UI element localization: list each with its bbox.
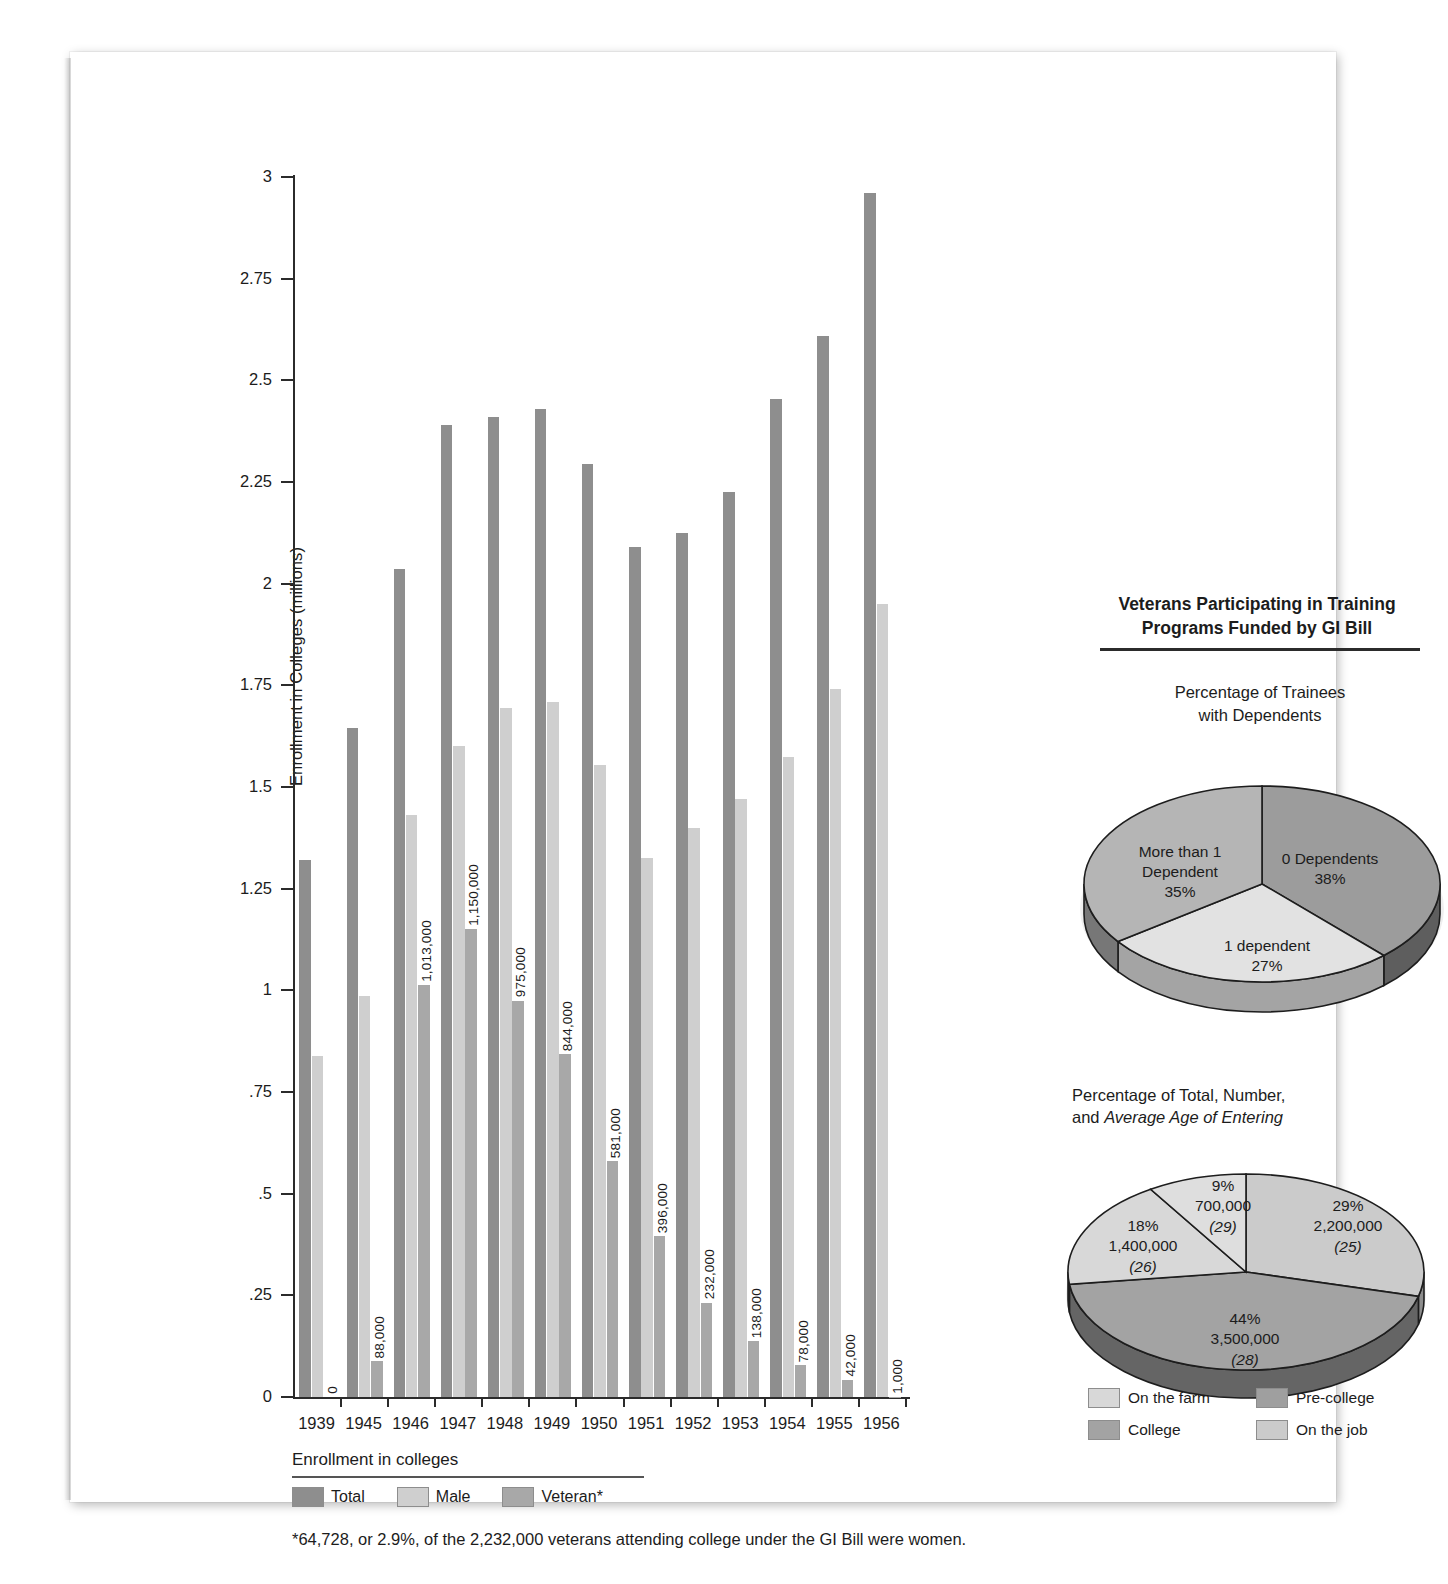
x-tick <box>387 1397 389 1407</box>
pie2-s2-num: 3,500,000 <box>1150 1329 1340 1349</box>
pie1-subtitle-line2: with Dependents <box>1050 704 1448 726</box>
x-tick <box>434 1397 436 1407</box>
bar-value-label-1954: 78,000 <box>796 1320 811 1363</box>
pie2-legend-swatch-college <box>1088 1420 1120 1440</box>
bar-value-label-1939: 0 <box>325 1386 340 1394</box>
y-tick-label: 0 <box>180 1387 272 1406</box>
legend-swatch-total <box>292 1487 324 1507</box>
x-axis-label-1956: 1956 <box>858 1414 905 1433</box>
y-tick-label: 1.25 <box>180 879 272 898</box>
bar-chart-legend: Enrollment in colleges TotalMaleVeteran* <box>292 1450 992 1507</box>
y-tick-label: 1.75 <box>180 675 272 694</box>
y-tick <box>281 176 293 178</box>
bar-veteran-1949 <box>559 1054 571 1397</box>
pie1-slice-a-text: 0 Dependents 38% <box>1250 849 1410 889</box>
x-axis-line <box>293 1397 910 1399</box>
pie2-slice-pre-college-text: 9% 700,000 (29) <box>1158 1176 1288 1236</box>
legend-swatch-veteran <box>502 1487 534 1507</box>
x-tick <box>905 1397 907 1407</box>
right-panel: Veterans Participating in Training Progr… <box>1050 592 1448 1424</box>
pie2-subtitle-line2-italic: Average Age of Entering <box>1104 1108 1283 1126</box>
pie2-legend-item-on-the-farm: On the farm <box>1088 1388 1256 1408</box>
y-tick <box>281 684 293 686</box>
x-tick <box>340 1397 342 1407</box>
bar-value-label-1955: 42,000 <box>843 1334 858 1377</box>
y-tick-label: .75 <box>180 1082 272 1101</box>
pie1-slice-a-value: 38% <box>1250 869 1410 889</box>
bar-total-1945 <box>347 728 359 1397</box>
bar-total-1947 <box>441 425 453 1397</box>
bar-male-1952 <box>688 828 700 1397</box>
bar-total-1949 <box>535 409 547 1397</box>
y-tick <box>281 481 293 483</box>
pie2-legend-swatch-on-the-job <box>1256 1420 1288 1440</box>
bar-total-1950 <box>582 464 594 1397</box>
legend-rule <box>292 1476 644 1478</box>
legend-label-total: Total <box>331 1488 365 1506</box>
x-axis-label-1952: 1952 <box>670 1414 717 1433</box>
bar-veteran-1948 <box>512 1001 524 1398</box>
x-tick <box>670 1397 672 1407</box>
bar-veteran-1945 <box>371 1361 383 1397</box>
pie2-s2-pct: 44% <box>1150 1309 1340 1329</box>
bar-total-1948 <box>488 417 500 1397</box>
bar-veteran-1951 <box>654 1236 666 1397</box>
bar-total-1956 <box>864 193 876 1397</box>
bar-male-1955 <box>830 689 842 1397</box>
x-axis-label-1939: 1939 <box>293 1414 340 1433</box>
pie2-s4-age: (29) <box>1209 1218 1237 1235</box>
x-axis-label-1953: 1953 <box>717 1414 764 1433</box>
pie2-s4-pct: 9% <box>1158 1176 1288 1196</box>
x-axis-label-1945: 1945 <box>340 1414 387 1433</box>
pie1-slice-b-value: 27% <box>1182 956 1352 976</box>
bar-total-1955 <box>817 336 829 1397</box>
bar-veteran-1953 <box>748 1341 760 1397</box>
heading-line-1: Veterans Participating in Training <box>1062 592 1448 616</box>
pie2-s3-num: 1,400,000 <box>1068 1236 1218 1256</box>
y-tick-label: .25 <box>180 1285 272 1304</box>
y-tick <box>281 278 293 280</box>
pie2-subtitle: Percentage of Total, Number, and Average… <box>1050 1084 1448 1129</box>
bar-male-1950 <box>594 765 606 1397</box>
bar-total-1954 <box>770 399 782 1397</box>
pie2-legend: On the farmPre-collegeCollegeOn the job <box>1088 1388 1448 1440</box>
pie2-subtitle-line2-plain: and <box>1072 1108 1104 1126</box>
bar-male-1945 <box>359 996 371 1397</box>
bar-value-label-1950: 581,000 <box>608 1108 623 1158</box>
pie1-subtitle-line1: Percentage of Trainees <box>1050 681 1448 703</box>
x-tick <box>623 1397 625 1407</box>
x-axis-label-1950: 1950 <box>575 1414 622 1433</box>
bar-value-label-1951: 396,000 <box>655 1183 670 1233</box>
bar-total-1952 <box>676 533 688 1397</box>
pie2-legend-label-on-the-farm: On the farm <box>1128 1389 1210 1407</box>
pie1-slice-b-text: 1 dependent 27% <box>1182 936 1352 976</box>
y-tick-label: 2.25 <box>180 472 272 491</box>
x-tick <box>528 1397 530 1407</box>
pie2-s2-age: (28) <box>1231 1351 1259 1368</box>
bar-male-1956 <box>877 604 889 1397</box>
chart-footnote: *64,728, or 2.9%, of the 2,232,000 veter… <box>292 1530 966 1549</box>
pie2-subtitle-line2: and Average Age of Entering <box>1072 1106 1448 1128</box>
bar-male-1949 <box>547 702 559 1397</box>
right-panel-heading: Veterans Participating in Training Progr… <box>1062 592 1448 640</box>
bar-total-1951 <box>629 547 641 1397</box>
y-tick <box>281 1091 293 1093</box>
y-tick <box>281 989 293 991</box>
x-tick <box>481 1397 483 1407</box>
pie1-slice-c-line1: More than 1 <box>1105 842 1255 862</box>
bar-value-label-1956: 1,000 <box>890 1359 905 1394</box>
y-tick-label: 2.5 <box>180 370 272 389</box>
x-axis-label-1949: 1949 <box>528 1414 575 1433</box>
x-tick <box>811 1397 813 1407</box>
x-axis-label-1948: 1948 <box>481 1414 528 1433</box>
y-tick <box>281 786 293 788</box>
legend-swatch-male <box>397 1487 429 1507</box>
pie1-slice-b-label: 1 dependent <box>1182 936 1352 956</box>
bar-total-1953 <box>723 492 735 1397</box>
bar-veteran-1954 <box>795 1365 807 1397</box>
x-tick <box>764 1397 766 1407</box>
x-axis-label-1947: 1947 <box>434 1414 481 1433</box>
bar-value-label-1945: 88,000 <box>372 1316 387 1359</box>
bar-male-1948 <box>500 708 512 1397</box>
y-tick-label: 2 <box>180 574 272 593</box>
